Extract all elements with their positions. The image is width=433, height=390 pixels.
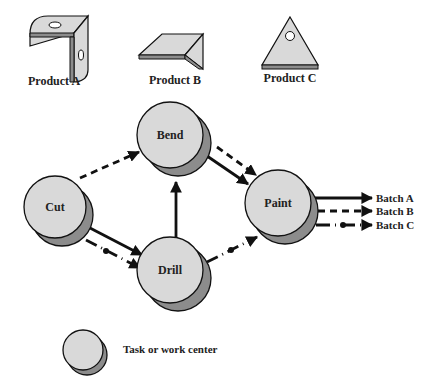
product-a-icon [30, 16, 88, 82]
flow-arrows [80, 147, 372, 268]
batch-b-label: Batch B [376, 205, 414, 217]
product-a-label: Product A [28, 74, 80, 88]
product-c-label: Product C [264, 71, 317, 85]
legend-label: Task or work center [123, 343, 218, 355]
node-cut-label: Cut [45, 200, 64, 214]
arrow-bend-paint-solid [207, 156, 248, 184]
arrow-bend-paint-dashed [217, 147, 256, 175]
legend-node-icon [63, 330, 107, 375]
arrow-cut-drill-solid [90, 228, 142, 255]
batch-a-label: Batch A [376, 192, 414, 204]
node-bend-label: Bend [157, 128, 184, 142]
product-c-icon [262, 17, 318, 69]
product-b-label: Product B [149, 73, 201, 87]
arrow-cut-drill-dashdot [86, 240, 140, 268]
arrow-cut-bend [80, 152, 139, 178]
workflow-diagram: Product A Product B Product C [0, 0, 433, 390]
batch-c-label: Batch C [376, 219, 414, 231]
product-b-icon [139, 34, 203, 69]
node-drill-label: Drill [158, 263, 183, 277]
node-paint-label: Paint [264, 196, 291, 210]
